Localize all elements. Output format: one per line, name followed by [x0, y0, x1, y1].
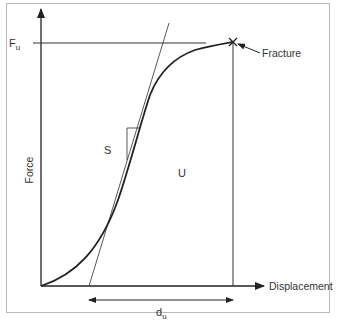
y-axis-label: Force	[23, 156, 35, 183]
stiffness-label: S	[104, 144, 111, 156]
energy-label: U	[178, 167, 186, 179]
force-displacement-diagram: Fu Fracture Force Displacement S U du	[0, 0, 343, 331]
fracture-label: Fracture	[262, 47, 301, 59]
ultimate-displacement-label: du	[156, 306, 167, 321]
x-axis-label: Displacement	[269, 280, 333, 292]
ultimate-force-label: Fu	[9, 37, 20, 52]
force-displacement-curve	[41, 42, 233, 286]
stiffness-tangent-line	[89, 23, 169, 286]
fracture-pointer-arrow	[238, 44, 260, 53]
